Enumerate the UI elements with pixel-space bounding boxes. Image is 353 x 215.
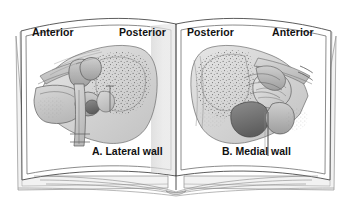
left-page-caption: A. Lateral wall (92, 146, 163, 157)
open-book-figure: Anterior Posterior Posterior Anterior A.… (0, 0, 353, 215)
right-page-caption: B. Medial wall (222, 146, 291, 157)
right-page-posterior-label: Posterior (187, 27, 234, 38)
right-page-anterior-label: Anterior (272, 27, 314, 38)
left-page-anterior-label: Anterior (32, 27, 74, 38)
left-page-posterior-label: Posterior (119, 27, 166, 38)
